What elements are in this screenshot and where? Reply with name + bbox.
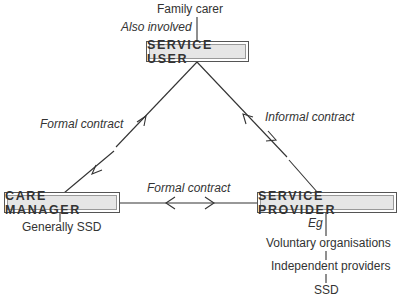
service-provider-node: SERVICE PROVIDER bbox=[257, 192, 397, 213]
informal-contract-label: Informal contract bbox=[265, 110, 354, 124]
family-carer-label: Family carer bbox=[157, 2, 223, 16]
also-involved-label: Also involved bbox=[121, 20, 192, 34]
provider-example-voluntary: Voluntary organisations bbox=[266, 236, 391, 250]
eg-label: Eg bbox=[308, 216, 323, 230]
generally-ssd-label: Generally SSD bbox=[22, 220, 101, 234]
provider-example-ssd: SSD bbox=[314, 283, 339, 297]
formal-contract-bottom-label: Formal contract bbox=[147, 181, 230, 195]
care-manager-node: CARE MANAGER bbox=[4, 192, 120, 213]
service-user-node: SERVICE USER bbox=[146, 41, 249, 62]
provider-example-independent: Independent providers bbox=[271, 259, 390, 273]
formal-contract-left-label: Formal contract bbox=[40, 117, 123, 131]
